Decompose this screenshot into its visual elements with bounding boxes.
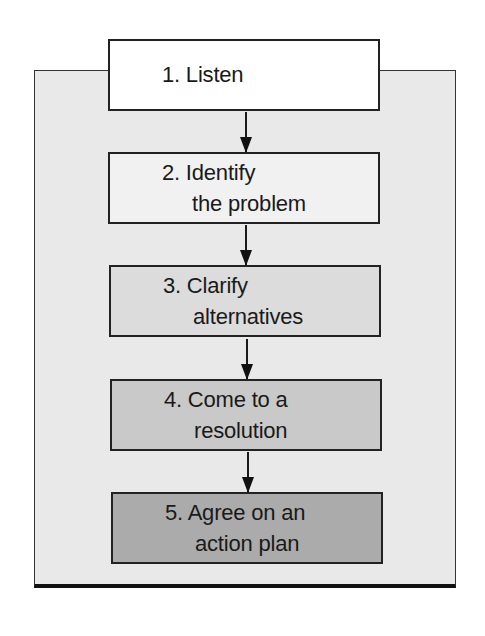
step-5-box: 5. Agree on an action plan bbox=[111, 492, 383, 564]
step-3-label: 3. Clarify alternatives bbox=[163, 270, 303, 332]
step-1-label: 1. Listen bbox=[162, 59, 243, 90]
step-4-line2: resolution bbox=[164, 415, 288, 446]
step-2-box: 2. Identify the problem bbox=[108, 152, 380, 224]
step-2-label: 2. Identify the problem bbox=[162, 157, 306, 219]
step-5-line2: action plan bbox=[165, 528, 305, 559]
step-4-box: 4. Come to a resolution bbox=[110, 379, 382, 451]
step-5-line1: 5. Agree on an bbox=[165, 500, 305, 525]
step-4-label: 4. Come to a resolution bbox=[164, 384, 288, 446]
step-1-box: 1. Listen bbox=[108, 39, 380, 111]
step-3-line1: 3. Clarify bbox=[163, 273, 248, 298]
arrow-down-icon bbox=[245, 112, 247, 152]
arrow-down-icon bbox=[246, 339, 248, 379]
step-2-line1: 2. Identify bbox=[162, 160, 255, 185]
step-4-line1: 4. Come to a bbox=[164, 387, 288, 412]
step-3-box: 3. Clarify alternatives bbox=[109, 265, 381, 337]
arrow-down-icon bbox=[247, 452, 249, 492]
step-5-label: 5. Agree on an action plan bbox=[165, 497, 305, 559]
step-3-line2: alternatives bbox=[163, 301, 303, 332]
arrow-down-icon bbox=[245, 225, 247, 265]
step-2-line2: the problem bbox=[162, 188, 306, 219]
step-1-line1: 1. Listen bbox=[162, 62, 243, 87]
